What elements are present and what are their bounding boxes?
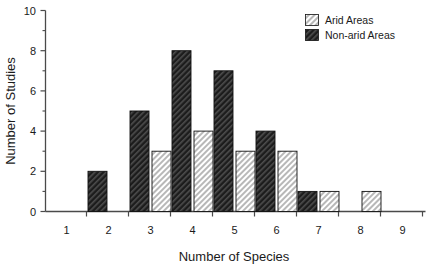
x-tick-label-1: 1 xyxy=(63,224,69,236)
bar-arid-areas-8 xyxy=(362,191,381,211)
bar-non-arid-areas-2 xyxy=(130,111,149,212)
y-axis-ticks xyxy=(41,11,46,212)
legend-swatch-arid xyxy=(306,15,319,26)
bar-non-arid-areas-6 xyxy=(298,191,317,211)
y-axis-title: Number of Studies xyxy=(3,57,18,165)
bar-non-arid-areas-4 xyxy=(214,71,233,212)
bar-chart-figure: 0 2 4 6 8 10 Number of Studies 1 2 3 4 xyxy=(0,0,431,271)
bar-arid-areas-6 xyxy=(278,151,297,211)
bar-arid-areas-4 xyxy=(194,131,213,211)
bar-arid-areas-5 xyxy=(236,151,255,211)
x-tick-label-5: 5 xyxy=(231,224,237,236)
bar-arid-areas-7 xyxy=(320,191,339,211)
bar-non-arid-areas-3 xyxy=(172,51,191,212)
legend-label-non-arid: Non-arid Areas xyxy=(325,29,395,41)
bar-non-arid-areas-1 xyxy=(88,171,107,211)
chart-canvas: 0 2 4 6 8 10 Number of Studies 1 2 3 4 xyxy=(0,0,431,271)
x-tick-label-7: 7 xyxy=(315,224,321,236)
bar-arid-areas-3 xyxy=(152,151,171,211)
y-axis-tick-labels: 0 2 4 6 8 10 xyxy=(24,5,36,218)
x-tick-label-3: 3 xyxy=(147,224,153,236)
y-tick-label-10: 10 xyxy=(24,5,36,17)
x-tick-label-4: 4 xyxy=(189,224,195,236)
legend-swatch-non-arid xyxy=(306,30,319,41)
y-tick-label-8: 8 xyxy=(30,45,36,57)
x-axis-title: Number of Species xyxy=(179,249,290,264)
x-tick-label-8: 8 xyxy=(357,224,363,236)
y-tick-label-2: 2 xyxy=(30,165,36,177)
y-tick-label-6: 6 xyxy=(30,85,36,97)
y-tick-label-0: 0 xyxy=(30,206,36,218)
x-tick-label-6: 6 xyxy=(273,224,279,236)
x-tick-label-9: 9 xyxy=(399,224,405,236)
chart-legend: Arid Areas Non-arid Areas xyxy=(306,14,396,41)
bars-layer xyxy=(88,51,381,212)
bar-non-arid-areas-5 xyxy=(256,131,275,211)
x-axis-tick-labels: 1 2 3 4 5 6 7 8 9 xyxy=(63,224,405,236)
x-tick-label-2: 2 xyxy=(105,224,111,236)
legend-label-arid: Arid Areas xyxy=(325,14,373,26)
x-axis-ticks xyxy=(87,212,423,217)
y-tick-label-4: 4 xyxy=(30,125,36,137)
